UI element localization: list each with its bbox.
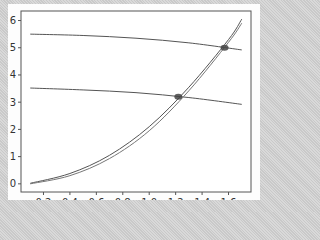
y-tick-label: 5 <box>10 42 16 53</box>
y-tick-label: 4 <box>10 69 16 80</box>
y-tick-label: 2 <box>10 124 16 135</box>
y-tick-label: 3 <box>10 97 16 108</box>
x-tick-label: 1.2 <box>168 197 184 200</box>
x-tick-label: 1.0 <box>141 197 157 200</box>
x-tick-label: 0.2 <box>36 197 52 200</box>
y-tick-label: 0 <box>10 178 16 189</box>
x-tick-label: 1.6 <box>221 197 237 200</box>
x-tick-label: 0.6 <box>88 197 104 200</box>
x-tick-label: 0.8 <box>115 197 131 200</box>
line-chart: 0.20.40.60.81.01.21.41.60123456 <box>8 4 260 200</box>
y-tick-label: 1 <box>10 151 16 162</box>
figure: 0.20.40.60.81.01.21.41.60123456 <box>8 4 260 200</box>
intersection-marker <box>174 94 182 100</box>
x-tick-label: 1.4 <box>194 197 210 200</box>
x-tick-label: 0.4 <box>62 197 78 200</box>
y-tick-label: 6 <box>10 15 16 26</box>
intersection-marker <box>221 45 229 51</box>
